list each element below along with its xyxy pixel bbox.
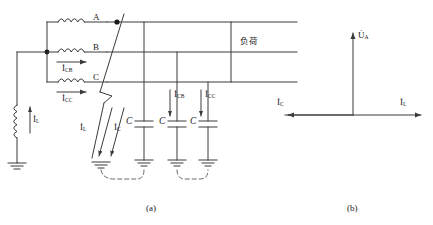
phase-label-a: A	[93, 12, 100, 22]
winding-current-label-icb: İCB	[62, 63, 72, 73]
panel-caption-a: (a)	[146, 203, 156, 213]
ground-symbol-cap-c	[199, 160, 217, 166]
ground-symbol-coil	[8, 163, 26, 169]
capacitor-label-c: C	[190, 116, 196, 126]
phase-label-b: B	[93, 42, 99, 52]
earth-return-dashed	[101, 170, 208, 179]
fault-current-label-il: İL	[80, 122, 86, 132]
phasor-label-ua: U̇A	[358, 30, 369, 40]
capacitor-label-a: C	[126, 116, 132, 126]
ground-symbol-fault	[92, 162, 110, 168]
fault-arc-path	[92, 14, 124, 158]
fault-current-label-ic: İC	[114, 122, 121, 132]
cap-current-label-icc: İCC	[205, 89, 215, 99]
phasor-label-il: İL	[400, 97, 406, 107]
coil-current-label: İL	[33, 114, 39, 124]
panel-caption-b: (b)	[347, 203, 358, 213]
load-label: 负荷	[240, 36, 252, 46]
phasor-label-ic: İC	[277, 97, 284, 107]
phase-label-c: C	[93, 72, 99, 82]
cap-current-label-icb: İCB	[174, 89, 184, 99]
ground-symbol-cap-a	[135, 160, 153, 166]
capacitance-branch-b	[168, 52, 186, 160]
capacitance-branch-a	[135, 22, 153, 160]
fault-point-node	[114, 19, 119, 24]
winding-current-label-icc: İCC	[62, 93, 72, 103]
neutral-bus	[17, 22, 47, 105]
capacitor-label-b: C	[159, 116, 165, 126]
ground-symbol-cap-b	[168, 160, 186, 166]
arc-suppression-coil	[14, 105, 17, 163]
